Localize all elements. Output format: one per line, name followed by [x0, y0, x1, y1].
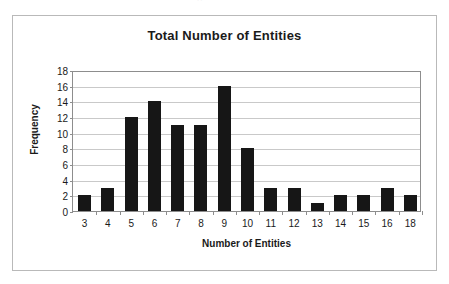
y-axis-ticklabel: 12 [57, 113, 68, 124]
plot-area: 024681012141618 34567891011121314151618 [72, 71, 421, 212]
x-axis-ticklabel: 6 [152, 218, 158, 229]
x-axis-ticklabel: 10 [242, 218, 253, 229]
bar [241, 148, 254, 211]
bar [125, 117, 138, 211]
x-axis-tickmark [329, 211, 330, 215]
bar [101, 188, 114, 212]
x-axis-tickmark [375, 211, 376, 215]
bar [218, 86, 231, 211]
scan-artifact-text: '' [197, 0, 221, 5]
x-axis-tickmark [166, 211, 167, 215]
x-axis-ticklabel: 11 [266, 218, 276, 229]
y-axis-ticklabel: 8 [62, 144, 68, 155]
y-axis-ticklabel: 6 [62, 160, 68, 171]
y-axis-ticklabel: 4 [62, 175, 68, 186]
x-axis-ticklabel: 9 [221, 218, 227, 229]
x-axis-ticklabel: 8 [198, 218, 204, 229]
x-axis-tickmark [120, 211, 121, 215]
x-axis-tickmark [306, 211, 307, 215]
x-axis-tickmark [259, 211, 260, 215]
x-axis-tickmark [96, 211, 97, 215]
x-axis-tickmark [352, 211, 353, 215]
y-axis-ticklabel: 0 [62, 207, 68, 218]
bar [264, 188, 277, 212]
x-axis-tickmark [143, 211, 144, 215]
x-axis-ticklabel: 12 [288, 218, 299, 229]
x-axis-tickmark [189, 211, 190, 215]
y-axis-ticklabel: 14 [57, 97, 68, 108]
bar [381, 188, 394, 212]
x-axis-tickmark [422, 211, 423, 215]
bar [334, 195, 347, 211]
bar [311, 203, 324, 211]
x-axis-tickmark [236, 211, 237, 215]
bar [194, 125, 207, 211]
x-axis-ticklabel: 5 [128, 218, 134, 229]
x-axis-ticklabel: 3 [82, 218, 88, 229]
bar [78, 195, 91, 211]
chart-title: Total Number of Entities [13, 28, 436, 43]
x-axis-tickmark [213, 211, 214, 215]
bar-series [73, 71, 421, 211]
x-axis-title: Number of Entities [72, 238, 421, 249]
chart-frame: Total Number of Entities Frequency 02468… [12, 15, 437, 271]
x-axis-ticklabel: 18 [405, 218, 416, 229]
x-axis-ticklabel: 13 [312, 218, 323, 229]
bar [404, 195, 417, 211]
x-axis-ticklabel: 15 [358, 218, 369, 229]
x-axis-ticklabel: 14 [335, 218, 346, 229]
bar [288, 188, 301, 212]
x-axis-ticklabel: 7 [175, 218, 181, 229]
bar [171, 125, 184, 211]
y-axis-ticklabel: 10 [57, 128, 68, 139]
y-axis-ticklabel: 18 [57, 66, 68, 77]
x-axis-ticklabel: 4 [105, 218, 111, 229]
x-axis-tickmark [282, 211, 283, 215]
y-axis-title: Frequency [29, 90, 40, 170]
y-axis-ticklabel: 2 [62, 191, 68, 202]
x-axis-tickmark [399, 211, 400, 215]
y-axis-tickmark [70, 212, 73, 213]
y-axis-ticklabel: 16 [57, 81, 68, 92]
bar [357, 195, 370, 211]
x-axis-ticklabel: 16 [382, 218, 393, 229]
bar [148, 101, 161, 211]
